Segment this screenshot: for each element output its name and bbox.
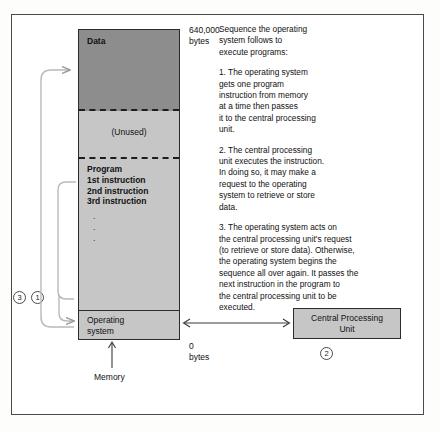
- memory-segment-operating-system: Operating system: [79, 311, 179, 339]
- memory-segment-operating-system-label: Operating system: [87, 315, 124, 336]
- step-marker-2: 2: [320, 347, 333, 360]
- cpu-box-label: Central Processing Unit: [311, 313, 383, 335]
- memory-segment-unused: (Unused): [79, 111, 179, 159]
- step-marker-3-label: 3: [17, 293, 21, 302]
- memory-segment-data: Data: [79, 30, 179, 111]
- figure-root: Data (Unused) Program 1st instruction 2n…: [0, 0, 440, 432]
- step-marker-3: 3: [13, 291, 26, 304]
- memory-segment-data-label: Data: [87, 36, 105, 47]
- memory-segment-program-ellipsis: . . .: [93, 211, 96, 244]
- step-marker-1: 1: [31, 291, 44, 304]
- memory-column: Data (Unused) Program 1st instruction 2n…: [78, 29, 180, 340]
- memory-segment-unused-label: (Unused): [79, 127, 179, 138]
- memory-segment-program-label: Program 1st instruction 2nd instruction …: [87, 164, 148, 207]
- memory-capacity-label: 640,000 bytes: [189, 25, 220, 47]
- explanation-intro: Sequence the operating system follows to…: [219, 24, 409, 58]
- step-marker-1-label: 1: [35, 293, 39, 302]
- step-marker-2-label: 2: [324, 349, 328, 358]
- memory-zero-label: 0 bytes: [189, 341, 209, 363]
- explanation-text: Sequence the operating system follows to…: [219, 24, 409, 313]
- explanation-step-3: 3. The operating system acts on the cent…: [219, 222, 409, 313]
- memory-caption-label: Memory: [94, 372, 125, 382]
- explanation-step-1: 1. The operating system gets one program…: [219, 67, 409, 135]
- explanation-step-2: 2. The central processing unit executes …: [219, 145, 409, 213]
- memory-segment-program: Program 1st instruction 2nd instruction …: [79, 159, 179, 311]
